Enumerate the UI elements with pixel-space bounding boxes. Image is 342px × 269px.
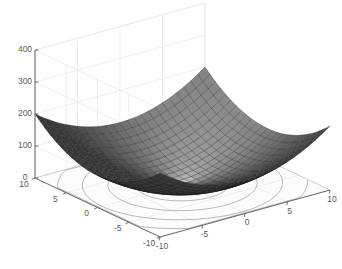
y-tick-10: 10 [19, 179, 29, 189]
z-tick-300: 300 [18, 76, 32, 86]
z-tick-400: 400 [18, 44, 32, 54]
y-tick-5: 5 [53, 194, 58, 204]
x-tick--5: -5 [201, 229, 209, 239]
x-tick-5: 5 [287, 206, 292, 216]
y-tick--5: -5 [114, 223, 122, 233]
y-tick-0: 0 [84, 208, 89, 218]
z-tick-200: 200 [18, 108, 32, 118]
z-tick-100: 100 [18, 140, 32, 150]
surface-plot-3d: 01002003004001050-5-10-10-50510 [0, 0, 342, 269]
x-tick-0: 0 [245, 217, 250, 227]
y-tick--10: -10 [143, 238, 156, 248]
x-tick--10: -10 [156, 241, 169, 251]
figure-canvas: 01002003004001050-5-10-10-50510 [0, 0, 342, 269]
x-tick-10: 10 [327, 194, 337, 204]
